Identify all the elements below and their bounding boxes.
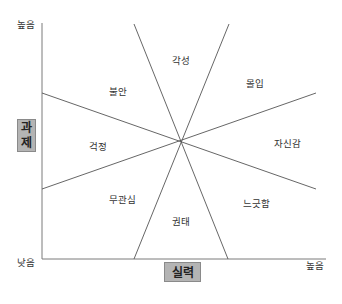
y-axis-low-label: 낮음 <box>17 258 35 268</box>
y-axis-high-label: 높음 <box>17 20 35 30</box>
x-axis-title: 실력 <box>164 262 201 282</box>
region-label-relaxation: 느긋함 <box>243 199 270 209</box>
diagram-lines <box>0 0 342 304</box>
y-axis-title-line1: 과 <box>18 121 35 136</box>
region-label-anxiety: 불안 <box>109 87 127 97</box>
region-label-boredom: 권태 <box>172 217 190 227</box>
flow-model-diagram: 높음 과 제 낮음 실력 높음 각성 몰입 불안 걱정 자신감 무관심 느긋함 … <box>0 0 342 304</box>
region-label-arousal: 각성 <box>172 56 190 66</box>
y-axis-title-line2: 제 <box>18 136 35 151</box>
y-axis-title: 과 제 <box>17 119 36 152</box>
region-label-flow: 몰입 <box>246 79 264 89</box>
region-label-control: 자신감 <box>274 139 301 149</box>
region-label-worry: 걱정 <box>89 142 107 152</box>
region-label-apathy: 무관심 <box>109 195 136 205</box>
x-axis-high-label: 높음 <box>306 261 324 271</box>
